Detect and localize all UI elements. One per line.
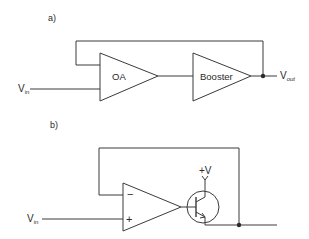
- part-a: a) OA Booster Vin Vout: [18, 13, 295, 101]
- npn-transistor: +V: [181, 165, 239, 225]
- vin-label-a: Vin: [18, 83, 29, 95]
- supply-terminal: [202, 176, 208, 180]
- vout-label-a: Vout: [280, 70, 295, 82]
- junction-dot-b: [237, 223, 241, 227]
- part-a-label: a): [48, 13, 56, 23]
- booster-label: Booster: [200, 71, 233, 82]
- part-b-label: b): [50, 120, 58, 130]
- junction-dot-a: [261, 74, 265, 78]
- supply-label: +V: [199, 165, 212, 176]
- circuit-diagram: a) OA Booster Vin Vout b) − +: [0, 0, 309, 239]
- non-inverting-sign: +: [126, 213, 132, 225]
- vin-label-b: Vin: [27, 213, 38, 225]
- part-b: b) − + +V Vin: [27, 120, 277, 231]
- oa-label: OA: [112, 71, 126, 82]
- oa-block: [100, 53, 158, 101]
- inverting-sign: −: [127, 188, 133, 200]
